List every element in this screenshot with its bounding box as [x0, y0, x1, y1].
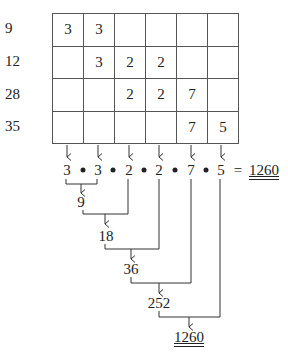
factor: 3 [94, 162, 102, 178]
factor: 7 [187, 162, 195, 178]
cascade-final-result: 1260 [174, 329, 204, 345]
connector-lines [0, 0, 288, 360]
multiply-dot-icon [204, 168, 209, 173]
factor: 2 [155, 162, 163, 178]
factor: 5 [217, 162, 225, 178]
cascade-step-9: 9 [77, 194, 85, 210]
equals-sign: = [234, 162, 242, 178]
cascade-step-252: 252 [148, 295, 171, 311]
cascade-step-18: 18 [99, 228, 114, 244]
multiply-dot-icon [173, 168, 178, 173]
cascade-step-36: 36 [124, 261, 139, 277]
multiply-dot-icon [111, 168, 116, 173]
multiply-dot-icon [142, 168, 147, 173]
factor: 2 [125, 162, 133, 178]
multiply-dot-icon [81, 168, 86, 173]
factor: 3 [63, 162, 71, 178]
product-result: 1260 [249, 162, 279, 178]
